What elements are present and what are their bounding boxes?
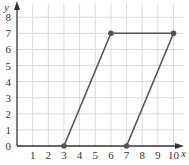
- y-tick-label: 8: [6, 11, 12, 23]
- grid-lines: [17, 3, 184, 146]
- y-tick-label: 2: [6, 108, 12, 120]
- y-tick-label: 3: [6, 92, 12, 104]
- y-axis-label: y: [3, 1, 9, 13]
- x-tick-label: 10: [168, 149, 180, 161]
- x-tick-label: 4: [77, 149, 83, 161]
- data-series: [61, 31, 176, 149]
- data-point: [124, 143, 130, 149]
- x-tick-label: 8: [139, 149, 145, 161]
- series-segment: [64, 33, 111, 146]
- axes: [14, 1, 184, 149]
- x-tick-label: 3: [61, 149, 67, 161]
- x-tick-label: 5: [93, 149, 99, 161]
- y-tick-label: 5: [6, 60, 12, 72]
- y-axis-arrow-icon: [14, 1, 20, 10]
- x-tick-label: 7: [124, 149, 130, 161]
- x-tick-label: 2: [46, 149, 52, 161]
- y-tick-label: 0: [6, 140, 12, 152]
- x-tick-label: 1: [30, 149, 36, 161]
- y-tick-label: 6: [6, 43, 12, 55]
- data-point: [61, 143, 67, 149]
- x-tick-label: 9: [155, 149, 161, 161]
- parallelogram-chart: 01234567812345678910yx: [0, 0, 189, 165]
- y-tick-label: 7: [6, 27, 12, 39]
- y-tick-label: 4: [6, 76, 12, 88]
- y-tick-label: 1: [6, 124, 12, 136]
- data-point: [108, 31, 114, 37]
- x-tick-label: 6: [108, 149, 114, 161]
- tick-labels: 01234567812345678910yx: [3, 1, 186, 161]
- data-point: [171, 31, 177, 37]
- series-segment: [127, 33, 174, 146]
- x-axis-label: x: [180, 147, 186, 159]
